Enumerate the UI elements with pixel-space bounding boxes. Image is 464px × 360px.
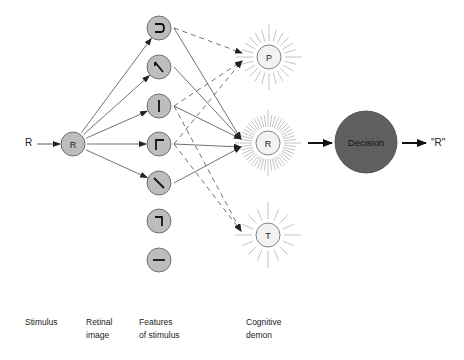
svg-text:R: R (265, 139, 272, 149)
retinal-image-node: R (61, 132, 85, 156)
demon-node-p: P (236, 24, 302, 90)
label-retinal-image: Retinal image (86, 316, 112, 342)
svg-text:R: R (70, 140, 77, 150)
diagram-canvas: RPRTDecision (0, 0, 464, 360)
svg-text:Decision: Decision (348, 137, 384, 148)
stimulus-letter: R (25, 136, 32, 149)
pandemonium-diagram: RPRTDecision R "R" Stimulus Retinal imag… (0, 0, 464, 360)
decision-node: Decision (335, 111, 397, 173)
output-label: "R" (431, 136, 445, 149)
feature-node-vertical (147, 94, 171, 118)
feature-node-horizontal (147, 248, 171, 272)
label-features: Features of stimulus (139, 316, 180, 342)
label-cognitive-demon: Cognitive demon (246, 316, 281, 342)
feature-node-curve (147, 16, 171, 40)
feature-node-diag-up (147, 55, 171, 79)
feature-node-corner-tr (147, 209, 171, 233)
svg-text:P: P (266, 53, 272, 63)
svg-text:T: T (265, 231, 271, 241)
label-stimulus: Stimulus (25, 316, 58, 329)
feature-node-corner-tl (147, 132, 171, 156)
demon-node-r: R (235, 110, 301, 176)
feature-node-diag-down (147, 171, 171, 195)
demon-node-t: T (235, 202, 301, 268)
